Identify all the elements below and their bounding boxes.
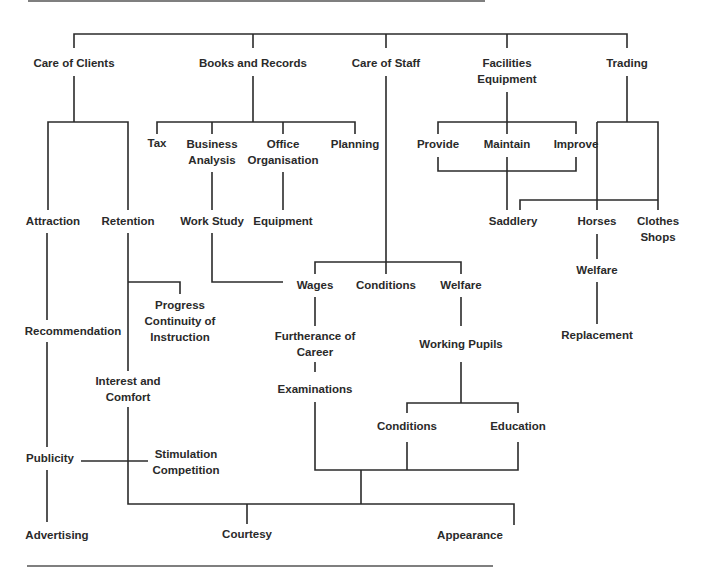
care-of-clients-connector [48, 76, 128, 210]
node-progress-line2: Continuity of [145, 313, 216, 329]
node-clothes-line1: Clothes [637, 213, 679, 229]
care-of-staff-connector [315, 76, 461, 274]
node-recommendation: Recommendation [25, 323, 122, 339]
node-progress-line3: Instruction [145, 329, 216, 345]
node-clothes-line2: Shops [637, 229, 679, 245]
node-courtesy: Courtesy [222, 526, 272, 542]
node-furtherance-line1: Furtherance of [275, 328, 356, 344]
node-maintain: Maintain [484, 136, 531, 152]
node-welfare-staff: Welfare [440, 277, 481, 293]
node-interest-line1: Interest and [95, 373, 160, 389]
node-stimulation-line1: Stimulation [152, 446, 219, 462]
node-attraction: Attraction [26, 213, 80, 229]
node-improve: Improve [554, 136, 599, 152]
node-horses-welfare: Welfare [576, 262, 617, 278]
node-wages: Wages [297, 277, 334, 293]
node-furtherance-line2: Career [275, 344, 356, 360]
node-business-line2: Analysis [186, 152, 237, 168]
node-interest-line2: Comfort [95, 389, 160, 405]
books-records-connector [157, 76, 355, 134]
node-replacement: Replacement [561, 327, 633, 343]
node-office-line2: Organisation [248, 152, 319, 168]
node-business-analysis: Business Analysis [186, 136, 237, 168]
node-facilities-line1: Facilities [477, 55, 536, 71]
node-books-and-records: Books and Records [199, 55, 307, 71]
node-working-pupils: Working Pupils [419, 336, 503, 352]
node-furtherance: Furtherance of Career [275, 328, 356, 360]
node-examinations: Examinations [278, 381, 353, 397]
node-provide: Provide [417, 136, 459, 152]
root-connector [74, 34, 627, 48]
node-stimulation: Stimulation Competition [152, 446, 219, 478]
node-work-study: Work Study [180, 213, 244, 229]
node-horses: Horses [578, 213, 617, 229]
node-conditions-pupils: Conditions [377, 418, 437, 434]
node-appearance: Appearance [437, 527, 503, 543]
node-facilities-equipment: Facilities Equipment [477, 55, 536, 87]
node-office-line1: Office [248, 136, 319, 152]
node-trading: Trading [606, 55, 648, 71]
node-care-of-staff: Care of Staff [352, 55, 420, 71]
node-progress-line1: Progress [145, 297, 216, 313]
node-planning: Planning [331, 136, 380, 152]
node-publicity: Publicity [26, 450, 74, 466]
node-equipment: Equipment [253, 213, 312, 229]
node-stimulation-line2: Competition [152, 462, 219, 478]
node-clothes-shops: Clothes Shops [637, 213, 679, 245]
node-advertising: Advertising [25, 527, 88, 543]
node-conditions-staff: Conditions [356, 277, 416, 293]
node-tax: Tax [148, 135, 167, 151]
node-facilities-line2: Equipment [477, 71, 536, 87]
node-retention: Retention [101, 213, 154, 229]
node-progress: Progress Continuity of Instruction [145, 297, 216, 345]
node-saddlery: Saddlery [489, 213, 538, 229]
node-interest-comfort: Interest and Comfort [95, 373, 160, 405]
node-care-of-clients: Care of Clients [33, 55, 114, 71]
node-education: Education [490, 418, 546, 434]
node-business-line1: Business [186, 136, 237, 152]
welfare-connector [407, 297, 518, 413]
node-office-organisation: Office Organisation [248, 136, 319, 168]
